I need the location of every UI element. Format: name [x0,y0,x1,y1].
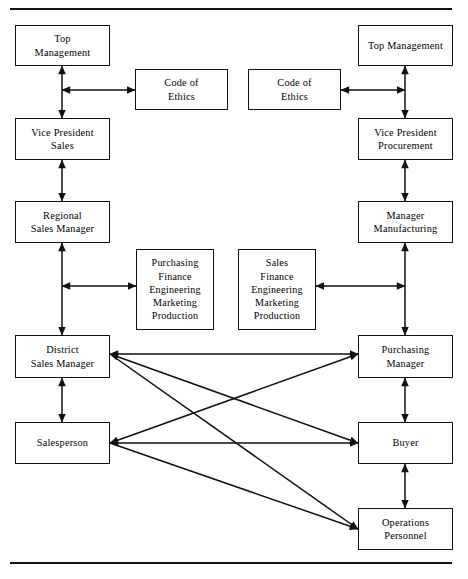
buyer-box[interactable]: Buyer [358,422,453,464]
purchasing-manager-label: Purchasing Manager [380,343,432,369]
buyer-label: Buyer [390,436,420,449]
operations-personnel-box[interactable]: Operations Personnel [358,508,453,550]
regional-sales-manager-label: Regional Sales Manager [29,209,97,235]
purchasing-manager-box[interactable]: Purchasing Manager [358,335,453,378]
salesperson-box[interactable]: Salesperson [15,422,110,464]
connector-layer [0,0,468,579]
code-of-ethics-buyer-box[interactable]: Code of Ethics [248,69,341,110]
salesperson-to-operations-personnel [110,443,358,529]
operations-personnel-label: Operations Personnel [380,516,431,542]
top-management-buyer-label: Top Management [366,39,445,52]
district-sales-manager-to-operations-personnel [110,354,358,529]
organizational-interface-diagram: Top ManagementCode of EthicsCode of Ethi… [0,0,468,579]
district-sales-manager-label: District Sales Manager [29,343,97,369]
code-of-ethics-buyer-label: Code of Ethics [275,76,313,102]
manager-manufacturing-label: Manager Manufacturing [372,209,440,235]
vice-president-sales-box[interactable]: Vice President Sales [15,118,110,160]
district-sales-manager-box[interactable]: District Sales Manager [15,335,110,378]
top-management-seller-box[interactable]: Top Management [15,25,110,66]
vice-president-sales-label: Vice President Sales [29,126,96,152]
seller-functional-areas-box[interactable]: Sales Finance Engineering Marketing Prod… [238,249,316,330]
vice-president-procurement-box[interactable]: Vice President Procurement [358,118,453,160]
top-management-buyer-box[interactable]: Top Management [358,25,453,66]
code-of-ethics-seller-label: Code of Ethics [162,76,200,102]
manager-manufacturing-box[interactable]: Manager Manufacturing [358,201,453,243]
code-of-ethics-seller-box[interactable]: Code of Ethics [135,69,228,110]
salesperson-label: Salesperson [35,436,90,449]
connectors [62,66,405,529]
top-management-seller-label: Top Management [33,32,93,58]
vice-president-procurement-label: Vice President Procurement [372,126,439,152]
regional-sales-manager-box[interactable]: Regional Sales Manager [15,201,110,243]
seller-functional-areas-label: Sales Finance Engineering Marketing Prod… [249,256,305,322]
buyer-functional-areas-label: Purchasing Finance Engineering Marketing… [147,256,203,322]
buyer-functional-areas-box[interactable]: Purchasing Finance Engineering Marketing… [136,249,214,330]
